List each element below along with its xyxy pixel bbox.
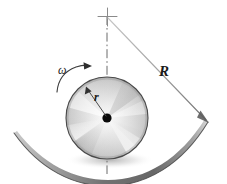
diagram-canvas (0, 0, 227, 184)
physics-diagram-figure: R r ω (0, 0, 227, 184)
crosshair-icon (98, 8, 117, 26)
hub-dot-icon (102, 113, 111, 122)
arrowhead-icon (84, 62, 93, 69)
label-radius-r: r (94, 91, 99, 103)
rolling-disk (52, 70, 166, 168)
label-angular-velocity: ω (58, 64, 66, 76)
label-radius-R: R (159, 64, 169, 79)
